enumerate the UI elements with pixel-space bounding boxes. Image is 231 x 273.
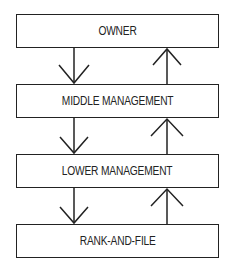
up-arrow-icon: [153, 49, 181, 84]
down-arrow-icon: [59, 48, 89, 83]
down-arrow-icon: [60, 188, 88, 223]
arrows-layer: [0, 0, 231, 273]
up-arrow-icon: [151, 189, 183, 224]
up-arrow-icon: [151, 119, 183, 154]
down-arrow-icon: [60, 118, 88, 153]
